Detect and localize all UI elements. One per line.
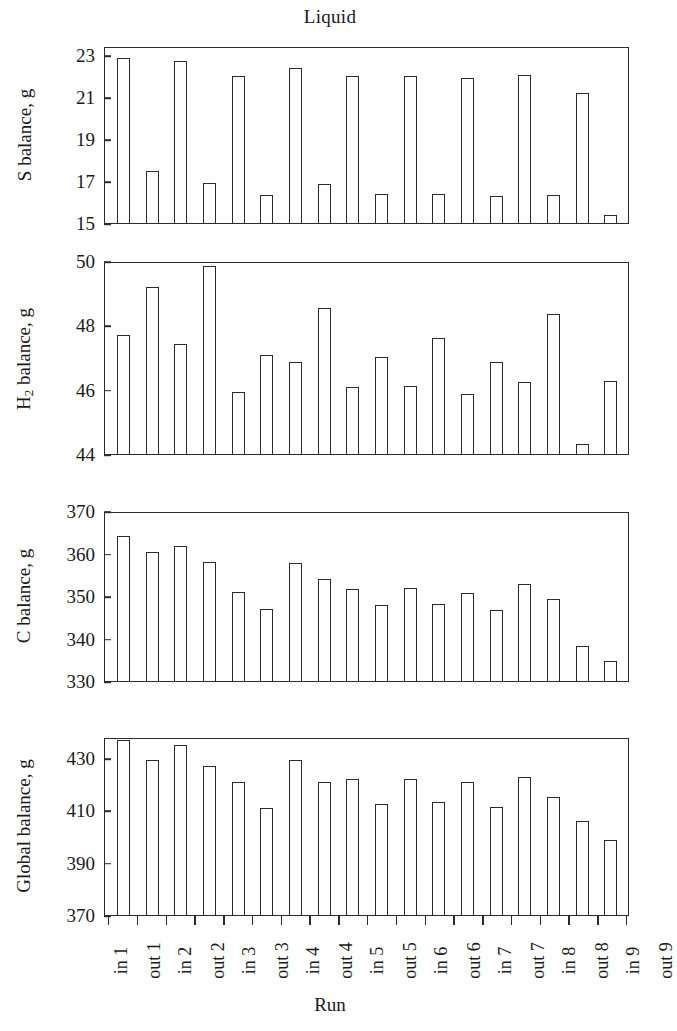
y-tick-mark bbox=[104, 863, 111, 865]
x-tick-mark bbox=[309, 916, 310, 925]
x-tick-label: in 4 bbox=[303, 947, 324, 975]
plot-area bbox=[104, 738, 629, 916]
y-tick-label: 430 bbox=[67, 748, 105, 770]
x-label-slot: in 8 bbox=[556, 928, 584, 986]
x-tick-mark bbox=[223, 916, 224, 925]
bar[interactable] bbox=[604, 840, 617, 915]
bar[interactable] bbox=[232, 782, 245, 915]
bar[interactable] bbox=[547, 797, 560, 915]
x-label-slot: out 5 bbox=[392, 928, 429, 986]
y-tick-label: 390 bbox=[67, 853, 105, 875]
bar-slot bbox=[482, 739, 511, 915]
x-tick-label: out 2 bbox=[207, 942, 228, 979]
x-axis-tick-labels: in 1out 1in 2out 2in 3out 3in 4out 4in 5… bbox=[104, 928, 629, 986]
x-tick-label: out 7 bbox=[527, 942, 548, 979]
x-tick-mark bbox=[194, 916, 195, 925]
x-label-slot: out 1 bbox=[136, 928, 173, 986]
x-tick-label: in 2 bbox=[175, 947, 196, 975]
bar-slot bbox=[424, 739, 453, 915]
x-tick-mark bbox=[367, 916, 368, 925]
bar[interactable] bbox=[404, 779, 417, 915]
x-label-slot: out 7 bbox=[520, 928, 557, 986]
x-label-slot: out 3 bbox=[264, 928, 301, 986]
bar-slot bbox=[367, 739, 396, 915]
bar-slot bbox=[281, 739, 310, 915]
x-tick-mark bbox=[540, 916, 541, 925]
x-axis-tick-marks bbox=[0, 916, 660, 925]
y-tick-label: 410 bbox=[67, 800, 105, 822]
x-axis-title: Run bbox=[0, 994, 660, 1016]
bar[interactable] bbox=[260, 808, 273, 915]
x-tick-label: in 9 bbox=[624, 947, 645, 975]
y-tick-mark bbox=[104, 810, 111, 812]
x-tick-mark bbox=[626, 916, 627, 925]
bar-slot bbox=[109, 739, 138, 915]
bar-slot bbox=[252, 739, 281, 915]
x-label-slot: out 9 bbox=[648, 928, 677, 986]
x-label-slot: in 2 bbox=[172, 928, 200, 986]
bar[interactable] bbox=[289, 760, 302, 915]
x-tick-mark bbox=[453, 916, 454, 925]
x-tick-label: out 5 bbox=[399, 942, 420, 979]
x-label-slot: in 5 bbox=[364, 928, 392, 986]
bar[interactable] bbox=[346, 779, 359, 915]
bar-slot bbox=[396, 739, 425, 915]
x-tick-label: in 1 bbox=[111, 947, 132, 975]
bar[interactable] bbox=[461, 782, 474, 915]
bar-slot bbox=[568, 739, 597, 915]
bar[interactable] bbox=[432, 802, 445, 915]
bar[interactable] bbox=[576, 821, 589, 915]
x-tick-label: in 7 bbox=[495, 947, 516, 975]
y-axis-title: Global balance, g bbox=[13, 737, 35, 915]
x-tick-label: out 1 bbox=[143, 942, 164, 979]
bar-slot bbox=[224, 739, 253, 915]
x-tick-mark bbox=[425, 916, 426, 925]
x-label-slot: out 8 bbox=[584, 928, 621, 986]
bar[interactable] bbox=[203, 766, 216, 915]
bar[interactable] bbox=[490, 807, 503, 915]
bar-slot bbox=[138, 739, 167, 915]
x-tick-mark bbox=[568, 916, 569, 925]
bar[interactable] bbox=[174, 745, 187, 915]
bar[interactable] bbox=[117, 740, 130, 915]
x-label-slot: in 6 bbox=[428, 928, 456, 986]
x-tick-label: in 5 bbox=[367, 947, 388, 975]
x-label-slot: in 1 bbox=[108, 928, 136, 986]
x-tick-mark bbox=[166, 916, 167, 925]
x-label-slot: out 6 bbox=[456, 928, 493, 986]
x-tick-label: in 6 bbox=[431, 947, 452, 975]
bar-slot bbox=[539, 739, 568, 915]
bar[interactable] bbox=[518, 777, 531, 915]
x-tick-mark bbox=[338, 916, 339, 925]
x-tick-mark bbox=[597, 916, 598, 925]
x-tick-label: in 3 bbox=[239, 947, 260, 975]
x-tick-label: out 9 bbox=[656, 942, 677, 979]
x-tick-label: in 8 bbox=[559, 947, 580, 975]
bar-slot bbox=[510, 739, 539, 915]
bar-series bbox=[105, 739, 628, 915]
x-label-slot: out 2 bbox=[200, 928, 237, 986]
x-tick-mark bbox=[108, 916, 109, 925]
bar-slot bbox=[310, 739, 339, 915]
x-label-slot: out 4 bbox=[328, 928, 365, 986]
x-tick-mark bbox=[511, 916, 512, 925]
x-tick-label: out 4 bbox=[335, 942, 356, 979]
x-label-slot: in 7 bbox=[492, 928, 520, 986]
y-tick-mark bbox=[104, 758, 111, 760]
x-tick-mark bbox=[281, 916, 282, 925]
x-label-slot: in 4 bbox=[300, 928, 328, 986]
bar-slot bbox=[596, 739, 625, 915]
x-tick-mark bbox=[137, 916, 138, 925]
bar[interactable] bbox=[375, 804, 388, 915]
x-label-slot: in 3 bbox=[236, 928, 264, 986]
x-tick-label: out 8 bbox=[591, 942, 612, 979]
bar[interactable] bbox=[318, 782, 331, 915]
x-tick-mark bbox=[252, 916, 253, 925]
x-tick-mark bbox=[482, 916, 483, 925]
x-tick-label: out 3 bbox=[271, 942, 292, 979]
bar[interactable] bbox=[146, 760, 159, 915]
bar-slot bbox=[195, 739, 224, 915]
x-tick-label: out 6 bbox=[463, 942, 484, 979]
